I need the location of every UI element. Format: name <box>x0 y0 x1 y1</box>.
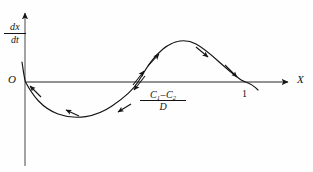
numerator-left-subscript: 1 <box>157 94 160 101</box>
numerator-right-symbol: C <box>166 89 173 100</box>
arrow-leave-mid-above <box>133 71 144 85</box>
origin-label: O <box>8 74 16 85</box>
x-axis-label: X <box>297 74 304 85</box>
arrow-approach-one <box>225 65 237 77</box>
arrow-upper-lobe-falling <box>196 47 208 57</box>
middle-equilibrium-label: C1–C2 D <box>140 90 186 112</box>
arrow-upper-lobe-rising <box>148 54 159 66</box>
numerator-right-subscript: 2 <box>173 94 176 101</box>
arrow-lower-lobe-right <box>118 104 131 112</box>
middle-equilibrium-denominator: D <box>140 101 186 112</box>
middle-equilibrium-numerator: C1–C2 <box>140 90 186 101</box>
y-axis-label-numerator: dx <box>4 22 26 34</box>
phase-portrait-figure: dx dt O X 1 C1–C2 D <box>0 0 313 172</box>
arrow-lower-lobe-left <box>66 110 79 116</box>
plot-canvas <box>0 0 313 172</box>
y-axis-label-denominator: dt <box>4 34 26 45</box>
arrow-approach-mid-below <box>134 76 145 90</box>
y-axis-label: dx dt <box>4 22 26 45</box>
numerator-left-symbol: C <box>150 89 157 100</box>
x-tick-label-1: 1 <box>242 89 247 99</box>
